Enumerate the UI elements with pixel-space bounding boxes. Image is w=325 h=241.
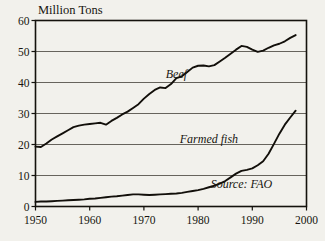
series-label-beef: Beef — [166, 67, 189, 81]
line-chart: Million Tons 0102030405060 1950196019701… — [0, 0, 325, 241]
series-label-farmed-fish: Farmed fish — [179, 132, 238, 146]
y-axis-tick-label: 0 — [24, 201, 30, 213]
y-axis-title: Million Tons — [38, 3, 103, 17]
y-axis-tick-label: 60 — [18, 15, 30, 27]
chart-container: Million Tons 0102030405060 1950196019701… — [0, 0, 325, 241]
source-label: Source: FAO — [211, 177, 273, 191]
x-axis-tick-label: 1960 — [78, 214, 101, 226]
x-axis-tick-label: 2000 — [295, 214, 318, 226]
x-axis-tick-label: 1970 — [132, 214, 155, 226]
x-axis-tick-label: 1990 — [241, 214, 264, 226]
y-axis-tick-label: 30 — [18, 108, 30, 120]
y-axis-tick-label: 50 — [18, 46, 30, 58]
x-axis-tick-label: 1950 — [24, 214, 47, 226]
y-axis-tick-label: 20 — [18, 139, 30, 151]
chart-background — [0, 0, 325, 241]
y-axis-tick-label: 10 — [18, 170, 30, 182]
x-axis-tick-label: 1980 — [187, 214, 210, 226]
y-axis-tick-label: 40 — [18, 77, 30, 89]
